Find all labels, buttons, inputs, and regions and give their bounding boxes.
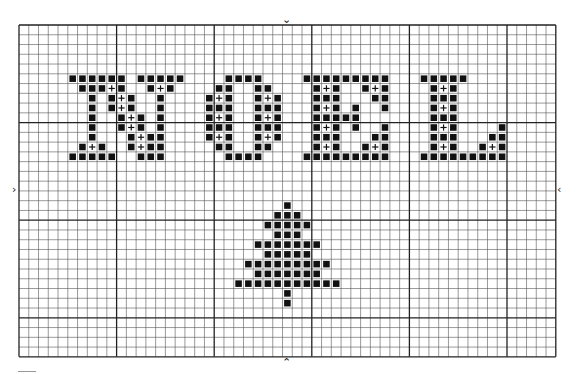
stitch-filled — [89, 95, 96, 102]
stitch-filled — [352, 75, 359, 82]
stitch-filled — [304, 271, 311, 278]
stitch-filled — [421, 75, 428, 82]
stitch-filled — [479, 153, 486, 160]
stitch-filled — [265, 280, 272, 287]
stitch-filled — [79, 153, 86, 160]
stitch-filled — [284, 202, 291, 209]
center-marker-top-icon: ⌄ — [282, 14, 291, 25]
stitch-filled — [206, 114, 213, 121]
stitch-filled — [450, 153, 457, 160]
stitch-filled — [372, 75, 379, 82]
stitch-filled — [382, 124, 389, 131]
stitch-filled — [274, 212, 281, 219]
stitch-filled — [382, 95, 389, 102]
stitch-filled — [382, 144, 389, 151]
stitch-filled — [226, 95, 233, 102]
center-marker-left-icon: › — [12, 184, 16, 195]
stitch-filled — [138, 75, 145, 82]
stitch-filled — [304, 75, 311, 82]
stitch-plus — [265, 95, 271, 101]
stitch-filled — [313, 280, 320, 287]
stitch-filled — [450, 85, 457, 92]
stitch-filled — [352, 105, 359, 112]
stitch-filled — [313, 105, 320, 112]
stitch-filled — [157, 114, 164, 121]
stitch-filled — [440, 75, 447, 82]
stitch-filled — [147, 134, 154, 141]
stitch-filled — [89, 134, 96, 141]
stitch-filled — [284, 251, 291, 258]
stitch-filled — [431, 85, 438, 92]
stitch-filled — [284, 271, 291, 278]
stitch-filled — [216, 105, 223, 112]
stitch-filled — [274, 222, 281, 229]
stitch-filled — [245, 153, 252, 160]
stitch-filled — [255, 280, 262, 287]
stitch-filled — [431, 124, 438, 131]
stitch-filled — [79, 75, 86, 82]
stitch-filled — [470, 153, 477, 160]
stitch-filled — [138, 114, 145, 121]
stitch-filled — [147, 153, 154, 160]
stitch-filled — [108, 95, 115, 102]
grid-minor-lines — [19, 25, 556, 357]
stitch-filled — [294, 251, 301, 258]
stitch-plus — [323, 105, 329, 111]
stitch-filled — [235, 280, 242, 287]
stitch-plus — [109, 85, 115, 91]
stitch-plus — [128, 124, 134, 130]
stitch-filled — [304, 153, 311, 160]
stitch-filled — [313, 153, 320, 160]
letter-e — [304, 75, 389, 160]
stitch-filled — [450, 75, 457, 82]
stitch-filled — [167, 85, 174, 92]
stitch-filled — [352, 114, 359, 121]
stitch-filled — [499, 124, 506, 131]
stitch-filled — [499, 153, 506, 160]
stitch-filled — [450, 114, 457, 121]
stitch-filled — [274, 134, 281, 141]
stitch-filled — [206, 134, 213, 141]
stitch-filled — [255, 75, 262, 82]
stitch-filled — [89, 85, 96, 92]
stitch-filled — [382, 134, 389, 141]
stitch-filled — [323, 134, 330, 141]
stitch-filled — [216, 85, 223, 92]
stitch-plus — [138, 134, 144, 140]
stitch-filled — [108, 75, 115, 82]
stitch-filled — [108, 153, 115, 160]
stitch-plus — [440, 85, 446, 91]
stitch-filled — [382, 85, 389, 92]
stitch-filled — [304, 222, 311, 229]
stitch-filled — [157, 105, 164, 112]
stitch-filled — [226, 134, 233, 141]
stitch-filled — [99, 75, 106, 82]
stitch-filled — [89, 105, 96, 112]
stitch-filled — [99, 153, 106, 160]
stitch-filled — [313, 75, 320, 82]
stitch-filled — [431, 75, 438, 82]
stitch-filled — [255, 271, 262, 278]
stitch-filled — [333, 85, 340, 92]
noel-lettering — [69, 75, 505, 160]
stitch-filled — [235, 153, 242, 160]
stitch-filled — [274, 271, 281, 278]
stitch-filled — [226, 114, 233, 121]
stitch-filled — [226, 153, 233, 160]
stitch-plus — [157, 85, 163, 91]
stitch-filled — [128, 134, 135, 141]
stitch-filled — [313, 144, 320, 151]
stitch-filled — [294, 222, 301, 229]
stitch-plus — [138, 144, 144, 150]
stitch-filled — [372, 134, 379, 141]
stitch-filled — [284, 232, 291, 239]
stitch-filled — [333, 124, 340, 131]
stitch-filled — [343, 114, 350, 121]
stitch-plus — [216, 95, 222, 101]
stitch-filled — [450, 144, 457, 151]
stitch-filled — [421, 153, 428, 160]
stitch-filled — [128, 144, 135, 151]
stitch-filled — [255, 105, 262, 112]
stitch-filled — [499, 144, 506, 151]
stitch-plus — [323, 124, 329, 130]
